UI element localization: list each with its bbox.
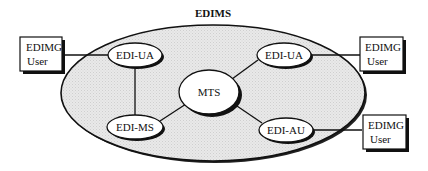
node-label: EDI-UA <box>265 49 303 61</box>
user-label-line1: EDIMG <box>368 119 404 131</box>
user-label-line1: EDIMG <box>26 41 62 53</box>
user-box-right-top: EDIMG User <box>360 37 406 74</box>
user-box-right-bottom: EDIMG User <box>363 115 409 152</box>
edims-diagram: EDIMS EDI-UA EDI-UA MTS EDI-MS <box>0 0 428 171</box>
user-label-line2: User <box>27 55 48 67</box>
user-label-line2: User <box>367 55 388 67</box>
node-label: EDI-AU <box>267 124 305 136</box>
node-label: MTS <box>198 86 221 98</box>
user-label-line2: User <box>370 133 391 145</box>
node-label: EDI-MS <box>116 121 154 133</box>
user-box-left: EDIMG User <box>20 37 65 74</box>
user-label-line1: EDIMG <box>365 41 401 53</box>
diagram-title: EDIMS <box>195 7 231 19</box>
node-label: EDI-UA <box>116 49 154 61</box>
